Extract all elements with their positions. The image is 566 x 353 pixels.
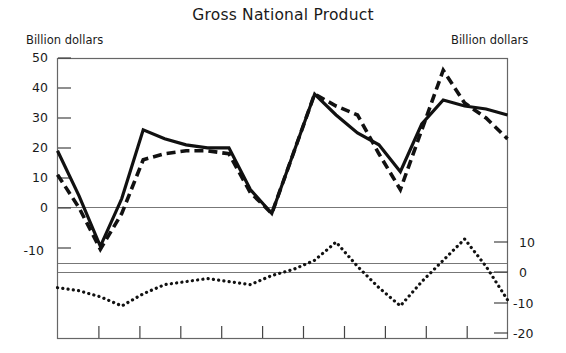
right-axis-ticks xyxy=(494,242,508,333)
x-axis-ticks xyxy=(99,326,467,338)
gnp-chart-figure: Gross National Product Billion dollars B… xyxy=(0,0,566,353)
plot-frame xyxy=(58,59,508,339)
solid-series-line xyxy=(58,94,508,246)
dashed-series-line xyxy=(58,70,508,249)
plot-canvas xyxy=(0,0,566,353)
